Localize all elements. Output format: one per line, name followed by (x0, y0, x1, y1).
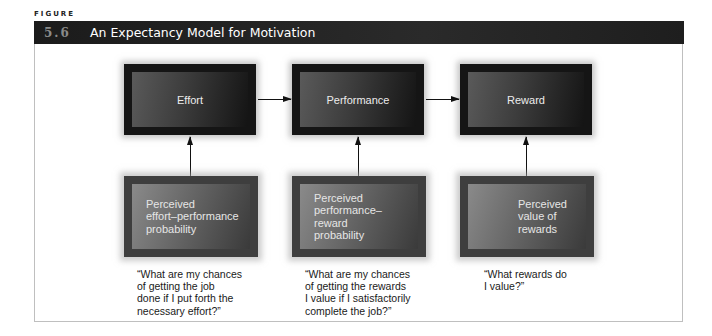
arrow-effort-to-performance (258, 99, 291, 100)
arrow-ep-probability-to-effort (190, 137, 191, 176)
caption-reward-question: “What rewards do I value?” (484, 268, 624, 292)
arrow-value-to-reward (526, 137, 527, 176)
node-performance: Performance (292, 64, 424, 135)
node-performance-label: Performance (300, 72, 416, 127)
figure-label: FIGURE (34, 10, 75, 18)
figure-number: 5.6 (44, 26, 90, 40)
arrow-pr-probability-to-performance (358, 137, 359, 176)
caption-effort-question: “What are my chances of getting the job … (137, 268, 277, 317)
node-reward: Reward (460, 64, 592, 135)
arrow-performance-to-reward (426, 99, 459, 100)
node-performance-reward-probability: Perceived performance–reward probability (292, 176, 426, 257)
figure-title: An Expectancy Model for Motivation (90, 25, 315, 40)
node-ep-probability-label: Perceived effort–performance probability (132, 184, 250, 249)
node-reward-label: Reward (468, 72, 584, 127)
node-effort-label: Effort (132, 72, 248, 127)
node-effort: Effort (124, 64, 256, 135)
node-pr-probability-label: Perceived performance–reward probability (300, 184, 418, 249)
node-value-label: Perceived value of rewards (468, 184, 586, 249)
figure-header: 5.6 An Expectancy Model for Motivation (34, 21, 684, 44)
node-value-of-rewards: Perceived value of rewards (460, 176, 594, 257)
caption-performance-question: “What are my chances of getting the rewa… (305, 268, 445, 317)
node-effort-performance-probability: Perceived effort–performance probability (124, 176, 258, 257)
